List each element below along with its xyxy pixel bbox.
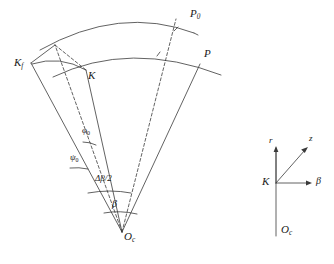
inset-axis-label-beta: β — [316, 176, 321, 186]
inset-axis-z-line — [276, 150, 305, 183]
point-label-k: K — [88, 70, 95, 81]
angle-label-psi0-sub: 0 — [76, 157, 79, 163]
point-label-oc-text: O — [124, 230, 132, 242]
point-label-p0: P0 — [190, 8, 200, 21]
inset-axis-label-r-text: r — [269, 135, 273, 145]
inset-axis-r-arrowhead — [274, 146, 279, 152]
angle-label-beta: β — [112, 199, 117, 209]
angle-label-delta-beta-half: Δβ/2 — [95, 174, 112, 183]
angle-label-phi0-sub: 0 — [87, 130, 90, 136]
short-arc-kf-to-k — [32, 61, 86, 70]
inset-label-oc-text: O — [281, 223, 289, 235]
angle-arc-psi0 — [70, 168, 88, 169]
point-label-p0-text: P — [190, 7, 197, 19]
angle-arc-delta-beta-half — [88, 191, 131, 193]
angle-label-beta-text: β — [112, 198, 117, 209]
inner-arc-through-k-and-p — [53, 58, 221, 77]
angle-arc-phi0 — [83, 142, 96, 145]
point-label-p-text: P — [204, 47, 211, 59]
point-label-oc-sub: c — [132, 236, 135, 244]
angle-arc-beta — [104, 212, 137, 214]
inset-label-oc-sub: c — [289, 229, 292, 237]
inset-axis-z-arrowhead — [301, 147, 308, 153]
outer-arc-through-p0 — [40, 22, 194, 50]
radial-line-to-kf — [31, 63, 122, 232]
tick-on-inner-arc — [157, 52, 160, 56]
point-label-k-text: K — [88, 69, 95, 81]
angle-label-psi0: ψ0 — [70, 153, 79, 164]
point-label-p0-sub: 0 — [197, 13, 201, 21]
point-label-oc: Oc — [124, 231, 135, 244]
inset-origin-label-k: K — [262, 176, 269, 187]
point-label-p: P — [204, 48, 211, 59]
inset-origin-label-k-text: K — [262, 175, 269, 187]
inset-axis-label-r: r — [269, 136, 273, 145]
inset-axis-label-z: z — [309, 134, 313, 143]
inset-axis-label-beta-text: β — [316, 175, 321, 186]
dashed-radial-to-p0 — [122, 19, 176, 232]
angle-label-phi0: φ0 — [82, 126, 90, 137]
point-label-kf: Kf — [14, 57, 23, 70]
radial-line-to-p — [122, 64, 200, 232]
inset-axis-label-z-text: z — [309, 133, 313, 143]
inset-axis-beta-arrowhead — [306, 181, 312, 186]
outer-arc-tail — [194, 33, 198, 35]
point-label-kf-sub: f — [21, 62, 23, 70]
figure-root: P0 P Kf K Oc φ0 ψ0 Δβ/2 β r z β K Oc — [0, 0, 334, 264]
inset-label-oc: Oc — [281, 224, 292, 237]
angle-label-delta-beta-half-text: Δβ/2 — [95, 173, 112, 183]
